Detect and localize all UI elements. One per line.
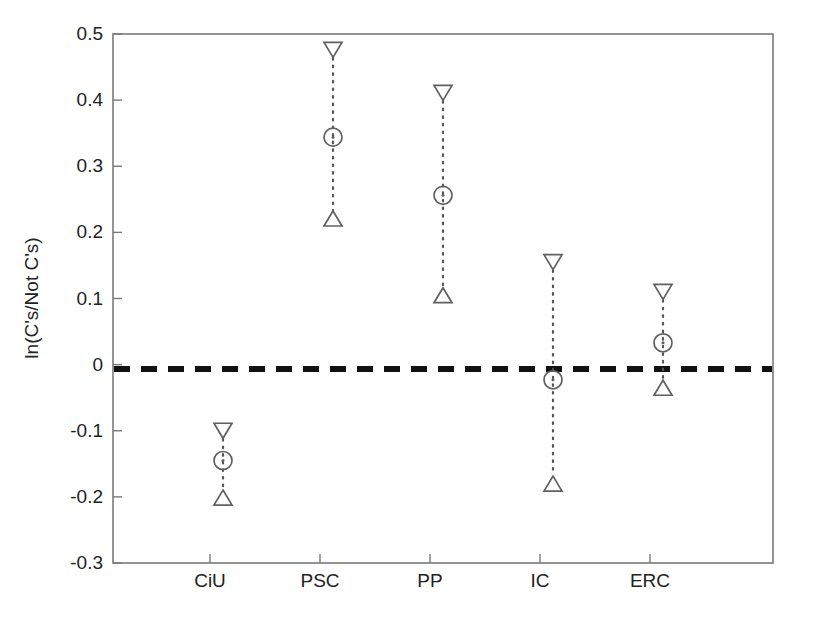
lower-bound-marker [324,211,342,226]
data-point-group-psc [324,42,342,226]
upper-bound-marker [654,284,672,299]
lower-bound-marker [544,476,562,491]
y-axis-label: ln(C's/Not C's) [21,237,42,358]
data-point-group-erc [654,284,672,395]
data-point-group-ic [544,255,562,492]
x-tick-label-ic: IC [531,570,550,591]
upper-bound-marker [544,255,562,270]
y-tick-label: -0.1 [70,420,103,441]
y-tick-label: -0.3 [70,552,103,573]
lower-bound-marker [214,490,232,505]
plot-canvas: 0.50.40.30.20.10-0.1-0.2-0.3 ln(C's/Not … [0,0,818,622]
y-axis-ticks: 0.50.40.30.20.10-0.1-0.2-0.3 [70,23,122,573]
y-tick-label: 0.5 [77,23,103,44]
upper-bound-marker [434,85,452,100]
x-tick-label-erc: ERC [630,570,670,591]
lower-bound-marker [654,380,672,395]
x-tick-label-pp: PP [417,570,442,591]
y-tick-label: 0 [92,354,103,375]
x-axis-ticks: CiUPSCPPICERC [194,554,670,591]
point-estimate-center-dot [662,341,665,344]
axes-frame [113,34,773,563]
chart-figure: 0.50.40.30.20.10-0.1-0.2-0.3 ln(C's/Not … [0,0,818,622]
y-tick-label: 0.2 [77,221,103,242]
x-tick-label-psc: PSC [300,570,339,591]
lower-bound-marker [434,288,452,303]
upper-bound-marker [324,42,342,57]
data-point-group-ciu [214,423,232,505]
y-tick-label: 0.3 [77,155,103,176]
data-series-group [214,42,672,505]
y-tick-label: 0.1 [77,288,103,309]
point-estimate-center-dot [222,459,225,462]
data-point-group-pp [434,85,452,302]
x-tick-label-ciu: CiU [194,570,226,591]
y-tick-label: 0.4 [77,89,104,110]
point-estimate-center-dot [552,378,555,381]
upper-bound-marker [214,423,232,438]
point-estimate-center-dot [332,136,335,139]
y-tick-label: -0.2 [70,486,103,507]
point-estimate-center-dot [442,194,445,197]
